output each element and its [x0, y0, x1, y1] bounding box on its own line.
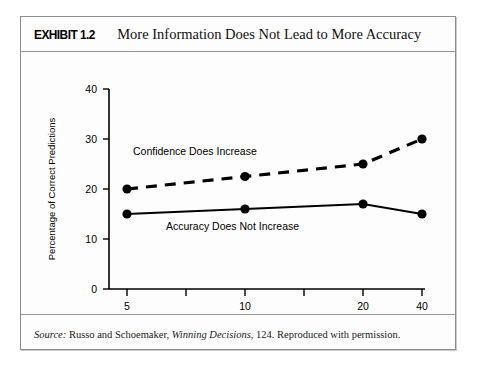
y-tick-label: 30 — [85, 133, 97, 145]
y-axis-title: Percentage of Correct Predictions — [46, 117, 57, 260]
series-markers-accuracy — [122, 199, 426, 218]
series-annotation-confidence: Confidence Does Increase — [133, 145, 257, 157]
exhibit-label: EXHIBIT 1.2 — [34, 27, 95, 42]
chart-plot-area: 40 30 20 10 0 Percentage of Correct Pred… — [21, 51, 457, 317]
source-suffix: , 124. Reproduced with permission. — [251, 329, 401, 340]
x-tick-label: 40 — [416, 300, 428, 312]
source-authors: Russo and Schoemaker, — [66, 329, 171, 340]
exhibit-header: EXHIBIT 1.2 More Information Does Not Le… — [21, 17, 455, 51]
x-axis-ticks — [127, 289, 422, 296]
exhibit-frame: EXHIBIT 1.2 More Information Does Not Le… — [20, 16, 456, 350]
page-title: More Information Does Not Lead to More A… — [117, 26, 421, 43]
source-book-title: Winning Decisions — [172, 329, 251, 340]
y-tick-label: 0 — [91, 283, 97, 295]
y-tick-label: 40 — [85, 83, 97, 95]
y-axis-ticks — [103, 89, 109, 289]
y-tick-label: 10 — [85, 233, 97, 245]
y-tick-label: 20 — [85, 183, 97, 195]
source-prefix: Source: — [34, 329, 66, 340]
x-tick-label: 5 — [124, 300, 130, 312]
x-tick-label: 10 — [239, 300, 251, 312]
series-annotation-accuracy: Accuracy Does Not Increase — [166, 220, 299, 232]
series-line-accuracy — [127, 204, 422, 214]
line-chart-svg: 40 30 20 10 0 Percentage of Correct Pred… — [21, 51, 457, 317]
x-tick-label: 20 — [357, 300, 369, 312]
source-note: Source: Russo and Schoemaker, Winning De… — [34, 329, 400, 340]
footer-divider — [21, 314, 455, 315]
